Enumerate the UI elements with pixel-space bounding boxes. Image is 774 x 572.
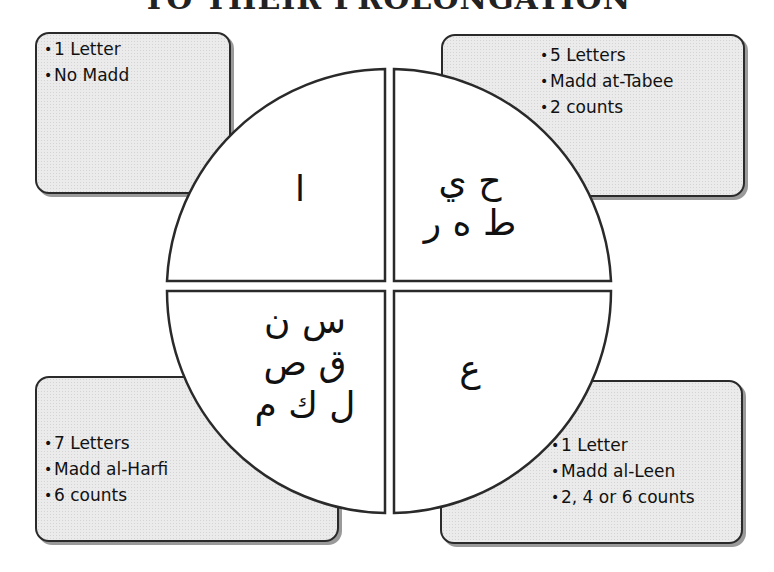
bullet-icon: •: [540, 94, 550, 120]
letters-line: ق ص: [240, 342, 370, 384]
info-text: 2 counts: [550, 97, 623, 117]
info-item: •6 counts: [44, 482, 168, 508]
bullet-icon: •: [44, 36, 54, 62]
info-list-top-left: •1 Letter •No Madd: [44, 36, 129, 88]
letters-line: ط ه ر: [410, 202, 530, 244]
bullet-icon: •: [551, 484, 561, 510]
letters-line: ح ي: [410, 160, 530, 202]
letters-bottom-left: س ن ق ص ل ك م: [240, 300, 370, 426]
info-text: No Madd: [54, 65, 129, 85]
letters-top-right: ح ي ط ه ر: [410, 160, 530, 244]
info-item: •Madd al-Harfi: [44, 456, 168, 482]
letters-line: ل ك م: [240, 384, 370, 426]
info-item: •2, 4 or 6 counts: [551, 484, 695, 510]
info-item: •No Madd: [44, 62, 129, 88]
bullet-icon: •: [44, 430, 54, 456]
info-item: •5 Letters: [540, 42, 673, 68]
info-text: 7 Letters: [54, 433, 130, 453]
letters-line: ع: [410, 348, 530, 390]
info-list-bottom-right: •1 Letter •Madd al-Leen •2, 4 or 6 count…: [551, 432, 695, 510]
info-text: Madd al-Leen: [561, 461, 675, 481]
info-text: 1 Letter: [561, 435, 628, 455]
info-text: Madd al-Harfi: [54, 459, 168, 479]
info-list-bottom-left: •7 Letters •Madd al-Harfi •6 counts: [44, 430, 168, 508]
bullet-icon: •: [551, 432, 561, 458]
bullet-icon: •: [44, 482, 54, 508]
info-text: Madd at-Tabee: [550, 71, 673, 91]
info-item: •1 Letter: [551, 432, 695, 458]
letters-bottom-right: ع: [410, 348, 530, 390]
letters-top-left: ا: [240, 168, 360, 210]
info-item: •Madd at-Tabee: [540, 68, 673, 94]
info-item: •7 Letters: [44, 430, 168, 456]
bullet-icon: •: [540, 68, 550, 94]
bullet-icon: •: [44, 62, 54, 88]
info-text: 6 counts: [54, 485, 127, 505]
info-item: •Madd al-Leen: [551, 458, 695, 484]
info-text: 1 Letter: [54, 39, 121, 59]
info-list-top-right: •5 Letters •Madd at-Tabee •2 counts: [540, 42, 673, 120]
letters-line: ا: [240, 168, 360, 210]
info-text: 5 Letters: [550, 45, 626, 65]
info-text: 2, 4 or 6 counts: [561, 487, 695, 507]
bullet-icon: •: [551, 458, 561, 484]
bullet-icon: •: [44, 456, 54, 482]
letters-line: س ن: [240, 300, 370, 342]
bullet-icon: •: [540, 42, 550, 68]
info-item: •1 Letter: [44, 36, 129, 62]
info-item: •2 counts: [540, 94, 673, 120]
